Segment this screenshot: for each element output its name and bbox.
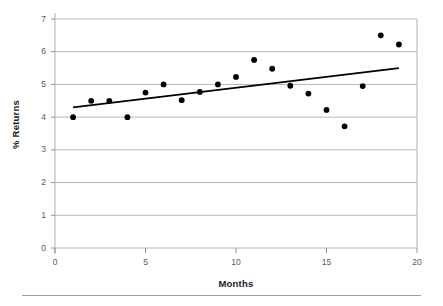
data-point bbox=[324, 107, 330, 113]
data-point bbox=[360, 83, 366, 89]
data-point bbox=[70, 114, 76, 120]
data-point bbox=[251, 57, 257, 63]
trendline bbox=[73, 68, 399, 107]
data-point bbox=[233, 74, 239, 80]
data-point-group bbox=[70, 32, 402, 129]
data-point bbox=[215, 82, 221, 88]
x-axis-tick-marks bbox=[55, 248, 417, 253]
data-point bbox=[106, 98, 112, 104]
gridline-group bbox=[55, 19, 417, 248]
data-point bbox=[197, 89, 203, 95]
data-point bbox=[161, 82, 167, 88]
data-point bbox=[306, 91, 312, 97]
data-point bbox=[342, 123, 348, 129]
data-point bbox=[143, 90, 149, 96]
plot-area bbox=[0, 0, 443, 306]
trendline-group bbox=[73, 68, 399, 107]
data-point bbox=[88, 98, 94, 104]
scatter-chart-figure: % Returns Months 0123456705101520 bbox=[0, 0, 443, 306]
footer-divider bbox=[22, 295, 421, 296]
y-axis-line-group bbox=[55, 13, 417, 254]
data-point bbox=[269, 66, 275, 72]
data-point bbox=[287, 83, 293, 89]
y-axis-tick-marks bbox=[51, 19, 55, 248]
data-point bbox=[179, 97, 185, 103]
data-point bbox=[378, 32, 384, 38]
data-point bbox=[125, 114, 131, 120]
data-point bbox=[396, 42, 402, 48]
